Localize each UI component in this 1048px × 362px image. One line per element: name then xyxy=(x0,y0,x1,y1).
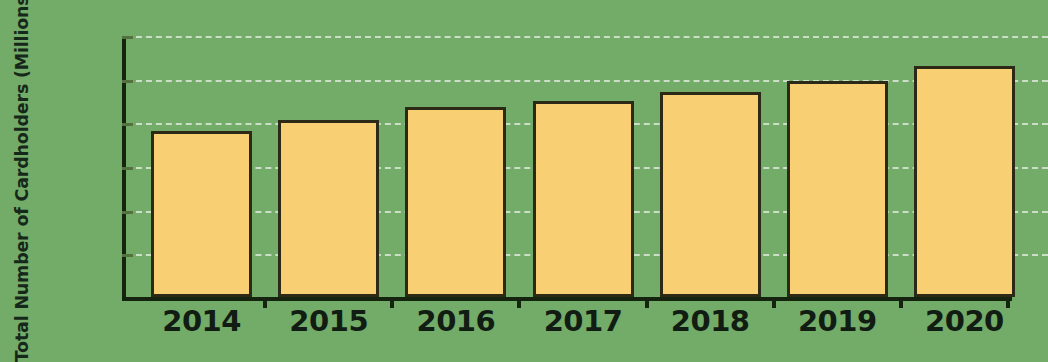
bar xyxy=(533,101,634,298)
y-tick-mark xyxy=(122,254,133,257)
plot-area: 020406080100120 201420152016201720182019… xyxy=(122,36,1012,298)
bar xyxy=(914,66,1015,297)
gridline xyxy=(126,80,1048,82)
y-tick-mark xyxy=(122,80,133,83)
bar xyxy=(278,120,379,297)
x-tick-label: 2020 xyxy=(884,304,1044,338)
y-tick-mark xyxy=(122,211,133,214)
bar xyxy=(660,92,761,297)
bar xyxy=(151,131,252,297)
gridline xyxy=(126,36,1048,38)
y-axis-title: Total Number of Cardholders (Millions) xyxy=(0,0,44,350)
bar xyxy=(787,81,888,297)
x-axis-line xyxy=(122,297,1012,301)
y-tick-mark xyxy=(122,123,133,126)
bar xyxy=(405,107,506,297)
y-tick-mark xyxy=(122,167,133,170)
y-tick-mark xyxy=(122,36,133,39)
